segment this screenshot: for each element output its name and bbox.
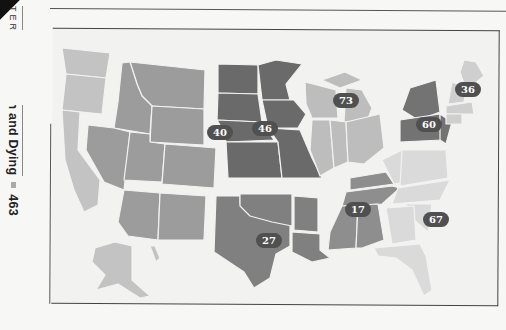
value-badge-west-south-central: 27: [256, 233, 282, 248]
value-badge-mountain: 40: [207, 125, 233, 140]
region-west-north-central: [217, 60, 322, 178]
value-badge-middle-atlantic: 60: [416, 117, 442, 132]
value-badge-south-atlantic: 67: [423, 212, 449, 227]
us-map: [0, 0, 506, 330]
value-badge-west-north-central: 46: [252, 121, 278, 136]
value-badge-east-south-central: 17: [345, 202, 371, 217]
region-middle-atlantic: [400, 80, 452, 144]
region-east-north-central: [305, 72, 384, 176]
value-badge-east-north-central: 73: [333, 93, 359, 108]
value-badge-new-england: 36: [455, 82, 481, 97]
region-mountain: [86, 62, 216, 240]
